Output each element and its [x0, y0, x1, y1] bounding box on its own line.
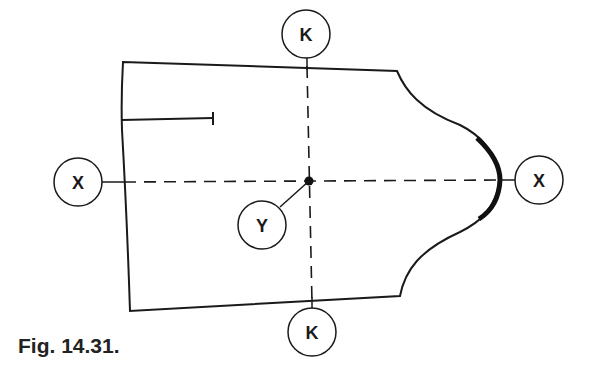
label-k-top: K — [282, 10, 330, 58]
figure-caption: Fig. 14.31. — [18, 334, 120, 358]
pattern-diagram: K K X X Y — [0, 0, 592, 379]
label-x-left: X — [54, 158, 102, 206]
marker-line — [122, 118, 213, 120]
label-k-bottom: K — [288, 308, 336, 356]
label-x-left-text: X — [72, 173, 84, 193]
thick-arc-segment — [477, 138, 500, 219]
label-x-right-text: X — [533, 171, 545, 191]
label-k-bottom-text: K — [306, 323, 319, 343]
label-k-top-text: K — [300, 25, 313, 45]
label-x-right: X — [515, 156, 563, 204]
label-y-center-text: Y — [256, 216, 268, 236]
label-y-center: Y — [238, 201, 286, 249]
y-leader-line — [280, 181, 309, 207]
